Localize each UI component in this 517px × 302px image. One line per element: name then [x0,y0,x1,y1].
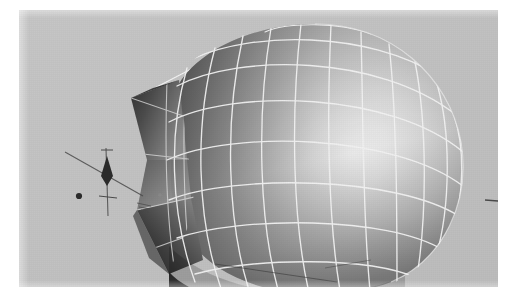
axis-edge-tick [485,200,498,201]
perspective-viewport[interactable] [19,10,498,287]
app-root: 3D Modeling Viewport perspective-viewpor… [0,0,517,302]
selection-dot [158,193,162,197]
viewport-canvas[interactable] [19,10,498,287]
gizmo-pivot-dot[interactable] [76,193,82,199]
